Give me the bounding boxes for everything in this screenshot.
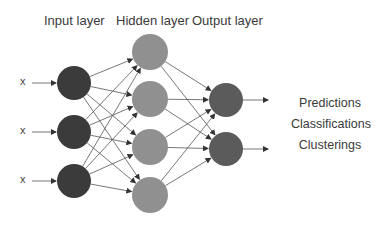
connection-edge [91,184,132,191]
network-graph [0,0,379,227]
connection-edge [165,158,210,185]
connection-edge [83,68,141,166]
connection-edge [86,66,137,120]
hidden-neuron-2 [132,81,168,117]
input-neuron-2 [57,115,91,149]
hidden-neuron-1 [132,34,168,70]
connection-edge [86,113,138,169]
output-layer-label: Output layer [192,13,263,28]
hidden-neuron-3 [132,129,168,165]
output-clusterings: Clusterings [290,138,370,152]
connection-edge [168,99,208,100]
connection-edge [90,59,133,76]
neural-network-diagram: Input layer Hidden layer Output layer x … [0,0,379,227]
hidden-layer-label: Hidden layer [116,13,189,28]
input-symbol-3: x [20,173,26,185]
connection-edge [165,62,211,91]
input-neuron-3 [57,164,91,198]
input-symbol-1: x [20,75,26,87]
output-classifications: Classifications [285,117,377,131]
input-symbol-2: x [20,124,26,136]
input-neuron-1 [57,66,91,100]
connection-edge [84,97,140,179]
output-predictions: Predictions [290,96,370,110]
neurons [57,34,243,213]
hidden-neuron-4 [132,177,168,213]
input-layer-label: Input layer [44,13,105,28]
output-neuron-1 [209,83,243,117]
output-neuron-2 [209,132,243,166]
connection-edge [87,94,135,135]
